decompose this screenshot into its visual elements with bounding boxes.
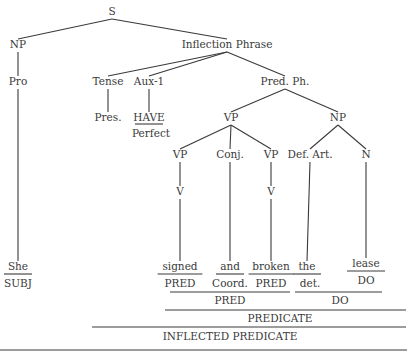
leaf-role: PRED xyxy=(255,277,286,289)
node-pres: Pres. xyxy=(94,111,121,123)
leaf-word: broken xyxy=(252,260,290,272)
node-have: HAVE xyxy=(133,111,164,123)
leaf-role: det. xyxy=(300,277,321,289)
node-np1: NP xyxy=(10,38,26,50)
edge-np2-n xyxy=(338,125,366,149)
edge-vp1-vp3 xyxy=(231,125,271,149)
node-v2: V xyxy=(266,185,275,197)
edge-s-ip xyxy=(112,19,227,39)
tree-leaves: SheSUBJsignedPREDandCoord.brokenPREDthed… xyxy=(4,257,385,289)
node-ip: Inflection Phrase xyxy=(182,38,273,50)
bracket-label: INFLECTED PREDICATE xyxy=(163,330,298,342)
leaf-word: the xyxy=(298,260,315,272)
node-perfect: Perfect xyxy=(132,127,171,139)
edge-ip-tense xyxy=(108,52,227,76)
node-n: N xyxy=(361,148,370,160)
node-vp3: VP xyxy=(263,148,279,160)
leaf-role: SUBJ xyxy=(4,277,32,289)
leaf-word: She xyxy=(8,260,28,272)
leaf-word: lease xyxy=(352,257,379,269)
edge-vp1-vp2 xyxy=(180,125,231,149)
node-pro: Pro xyxy=(9,75,27,87)
edge-predph-np2 xyxy=(285,89,338,112)
edge-predph-vp1 xyxy=(231,89,285,112)
edge-to-leaf-the xyxy=(307,162,310,261)
node-tense: Tense xyxy=(93,75,124,87)
bracket-label: PRED xyxy=(214,294,245,306)
leaf-role: DO xyxy=(357,274,374,286)
tree-edges xyxy=(18,19,366,261)
bracket-label: PREDICATE xyxy=(248,312,313,324)
edge-ip-aux1 xyxy=(149,52,227,76)
leaf-role: Coord. xyxy=(212,277,248,289)
node-np2: NP xyxy=(330,111,346,123)
leaf-role: PRED xyxy=(164,277,195,289)
edge-s-np1 xyxy=(18,19,112,39)
tree-nodes: SNPInflection PhraseProTenseAux-1Pred. P… xyxy=(9,5,371,197)
bracket-label: DO xyxy=(331,294,348,306)
node-s: S xyxy=(108,5,115,17)
node-aux1: Aux-1 xyxy=(133,75,164,87)
leaf-word: signed xyxy=(162,260,197,272)
leaf-word: and xyxy=(220,260,240,272)
edge-vp1-conj xyxy=(230,125,231,149)
node-defart: Def. Art. xyxy=(288,148,333,160)
node-v1: V xyxy=(175,185,184,197)
edge-ip-predph xyxy=(227,52,285,76)
node-predph: Pred. Ph. xyxy=(261,75,310,87)
syntax-tree-diagram: SNPInflection PhraseProTenseAux-1Pred. P… xyxy=(0,0,407,351)
edge-np2-defart xyxy=(310,125,338,149)
node-vp2: VP xyxy=(172,148,188,160)
node-conj: Conj. xyxy=(216,148,244,160)
node-vp1: VP xyxy=(223,111,239,123)
constituent-brackets: PREDDOPREDICATEINFLECTED PREDICATE xyxy=(92,292,406,342)
